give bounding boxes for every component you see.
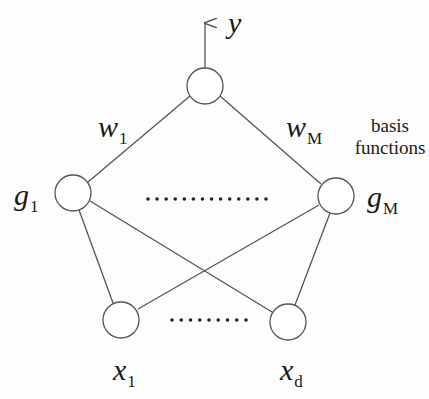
weight-label-w1: w1 <box>98 112 128 142</box>
output-label-y: y <box>228 8 241 38</box>
input-node-x1 <box>103 302 139 338</box>
hidden-node-gM <box>318 178 354 214</box>
edge-g1-x1 <box>79 210 113 303</box>
hidden-ellipsis-dots <box>146 197 268 201</box>
basis-functions-annotation: basis functions <box>350 115 429 159</box>
hidden-label-gM: gM <box>367 182 398 212</box>
input-node-xd <box>270 304 306 340</box>
annotation-line-1: basis <box>350 115 429 137</box>
annotation-line-2: functions <box>350 137 429 159</box>
hidden-label-g1: g1 <box>14 180 39 210</box>
edge-gM-xd <box>295 213 330 305</box>
edge-gM-x1 <box>138 205 319 309</box>
output-node <box>187 68 223 104</box>
input-label-x1: x1 <box>113 355 136 385</box>
input-ellipsis-dots <box>170 318 248 322</box>
weight-label-wM: wM <box>286 112 322 142</box>
network-graph <box>0 0 429 399</box>
input-label-xd: xd <box>280 355 303 385</box>
edge-g1-xd <box>90 201 272 312</box>
hidden-node-g1 <box>55 175 91 211</box>
rbf-network-diagram: y w1 wM basis functions g1 gM x1 xd <box>0 0 429 399</box>
